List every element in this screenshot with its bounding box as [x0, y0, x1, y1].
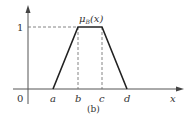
x-tick-b: b — [75, 93, 81, 104]
caption: (b) — [87, 104, 100, 114]
y-tick-1: 1 — [17, 22, 23, 33]
x-axis-arrow-icon — [176, 87, 184, 92]
function-label: μB(x) — [79, 13, 103, 25]
x-tick-a: a — [50, 93, 56, 104]
x-axis-label: x — [170, 93, 176, 104]
membership-curve — [53, 27, 127, 89]
trapezoid-membership-chart: 0 1 a b c d x μB(x) (b) — [0, 0, 194, 127]
x-tick-c: c — [99, 93, 105, 104]
origin-label: 0 — [17, 93, 23, 104]
x-tick-d: d — [124, 93, 130, 104]
y-axis-arrow-icon — [26, 5, 31, 13]
